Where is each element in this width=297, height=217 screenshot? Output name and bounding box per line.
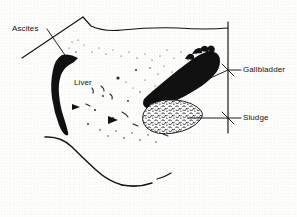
arrow-markers [72,104,118,124]
label-gallbladder: Gallbladder [243,65,285,74]
ascites-crescent [51,54,78,135]
ultrasound-diagram-figure: Ascites Liver Gallbladder Sludge [0,0,297,217]
label-liver: Liver [74,78,92,87]
diagram-canvas [0,0,297,217]
label-sludge: Sludge [243,113,269,122]
label-ascites: Ascites [12,24,39,33]
lower-wall-contour [45,137,171,186]
